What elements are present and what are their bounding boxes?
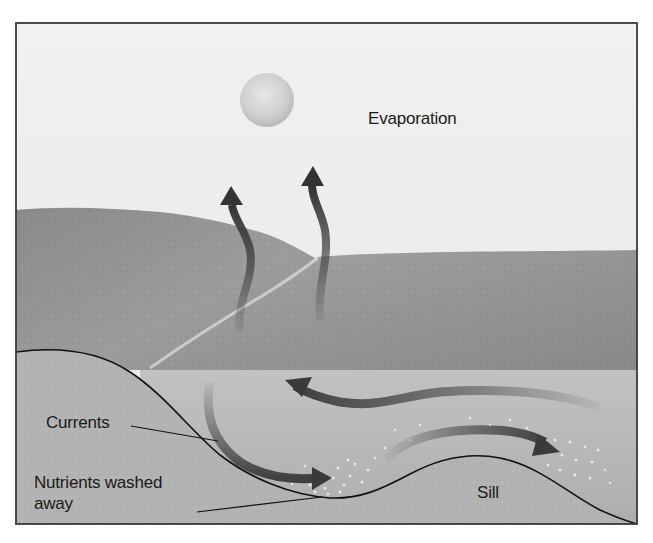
- diagram-figure: Evaporation Currents Nutrients washed aw…: [0, 0, 653, 543]
- sill-label: Sill: [477, 482, 499, 503]
- currents-label: Currents: [46, 412, 110, 433]
- sun-icon: [240, 73, 294, 127]
- diagram-canvas: [0, 0, 653, 543]
- evaporation-label: Evaporation: [368, 108, 457, 129]
- nutrients-label: Nutrients washed away: [34, 472, 164, 514]
